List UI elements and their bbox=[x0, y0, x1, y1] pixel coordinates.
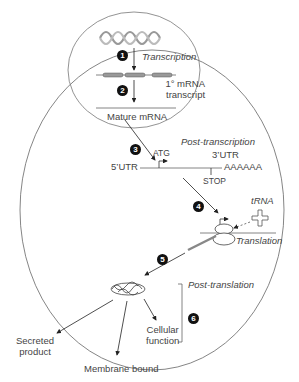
secreted-product-label: Secreted product bbox=[16, 336, 54, 358]
stop-codon-label: STOP bbox=[203, 177, 226, 187]
trna-label: tRNA bbox=[251, 196, 274, 207]
ribosome-small-subunit bbox=[213, 233, 235, 245]
step-6-badge: 6 bbox=[188, 313, 199, 324]
transcription-label: Transcription bbox=[142, 52, 196, 63]
primary-transcript-label: 1° mRNA transcript bbox=[158, 79, 205, 101]
membrane-bound-label: Membrane bound bbox=[84, 364, 158, 375]
trna-icon bbox=[252, 210, 268, 226]
atg-label: ATG bbox=[153, 149, 170, 159]
step-1-badge: 1 bbox=[117, 50, 128, 61]
dna-helix-icon bbox=[100, 32, 160, 44]
cellular-function-label: Cellular function bbox=[146, 325, 179, 347]
primary-transcript-icon bbox=[96, 73, 176, 77]
step-4-badge: 4 bbox=[193, 201, 204, 212]
utr5-label: 5’UTR bbox=[111, 162, 138, 173]
step-2-badge: 2 bbox=[117, 85, 128, 96]
polypeptide-chain bbox=[188, 236, 216, 250]
utr3-label: 3’UTR bbox=[212, 150, 239, 161]
cell-membrane bbox=[20, 50, 284, 370]
folded-protein-icon bbox=[111, 282, 145, 295]
post-translation-label: Post-translation bbox=[188, 280, 254, 291]
translation-label: Translation bbox=[236, 236, 282, 247]
post-transcription-label: Post-transcription bbox=[181, 137, 255, 148]
mature-mrna-label: Mature mRNA bbox=[107, 112, 167, 123]
step-3-badge: 3 bbox=[130, 144, 141, 155]
step-5-badge: 5 bbox=[157, 254, 168, 265]
ribosome-large-subunit bbox=[215, 224, 233, 234]
polya-tail-label: AAAAAA bbox=[224, 162, 262, 173]
